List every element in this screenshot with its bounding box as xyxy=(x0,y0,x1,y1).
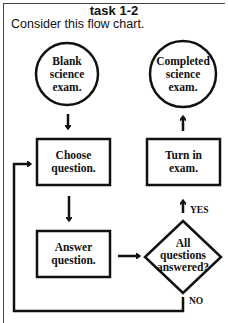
node-end-circle: Completed science exam. xyxy=(150,41,216,107)
node-answer-box: Answer question. xyxy=(37,231,110,277)
node-answer-line-2: question. xyxy=(51,254,96,267)
node-turnin-line-1: Turn in xyxy=(165,149,203,161)
label-yes: YES xyxy=(190,205,208,215)
label-no: NO xyxy=(189,296,203,306)
node-decision-line-1: All xyxy=(176,237,191,249)
node-start-line-1: Blank xyxy=(52,55,82,67)
node-start-circle: Blank science exam. xyxy=(36,43,98,105)
node-choose-line-2: question. xyxy=(51,162,96,175)
node-end-line-2: science xyxy=(166,68,200,80)
node-end-line-3: exam. xyxy=(168,81,197,93)
node-answer-line-1: Answer xyxy=(55,241,93,253)
node-decision-line-3: answered? xyxy=(157,261,209,273)
node-start-line-2: science xyxy=(50,68,84,80)
node-turnin-line-2: exam. xyxy=(169,162,198,174)
node-decision-diamond: All questions answered? xyxy=(145,221,221,293)
node-turnin-box: Turn in exam. xyxy=(147,139,220,185)
node-choose-box: Choose question. xyxy=(37,139,110,185)
node-end-line-1: Completed xyxy=(156,55,210,68)
node-choose-line-1: Choose xyxy=(56,149,92,161)
node-start-line-3: exam. xyxy=(52,81,81,93)
